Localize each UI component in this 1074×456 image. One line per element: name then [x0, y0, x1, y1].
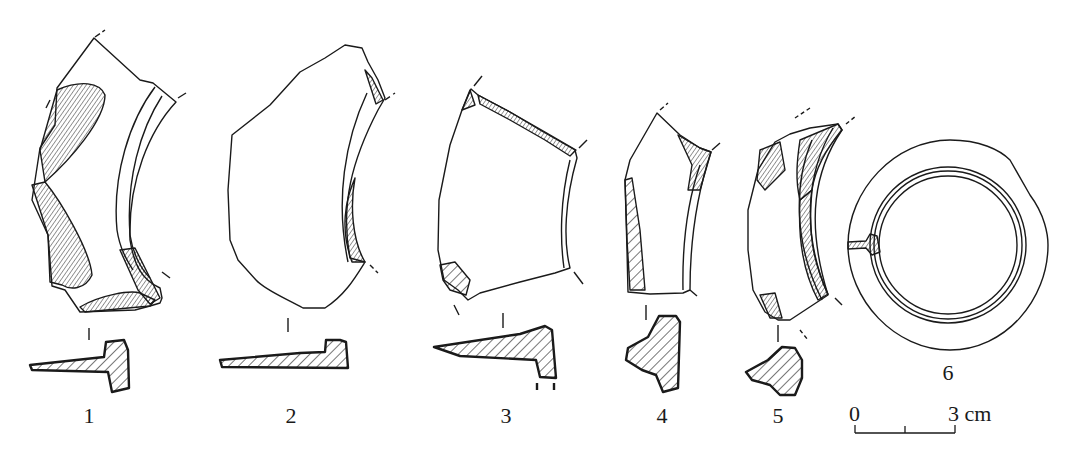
specimen-label-1: 1: [84, 403, 95, 429]
scale-bar: [855, 425, 955, 433]
specimen-1-plan: [32, 30, 186, 340]
specimen-4-section: [626, 316, 680, 392]
specimen-5-section: [746, 347, 802, 395]
specimen-4-plan: [625, 103, 720, 320]
specimen-6-plan-full-ring: [848, 140, 1048, 350]
specimen-3-section: [434, 326, 556, 390]
specimen-label-2: 2: [286, 403, 297, 429]
specimen-label-6: 6: [943, 360, 954, 386]
specimen-3-plan: [438, 76, 587, 328]
specimen-label-5: 5: [773, 403, 784, 429]
specimen-label-3: 3: [501, 403, 512, 429]
specimen-2-plan: [228, 45, 395, 332]
specimen-5-plan: [748, 108, 856, 342]
specimen-1-section: [30, 340, 129, 392]
drawing-canvas: [0, 0, 1074, 456]
specimen-2-section: [220, 340, 348, 368]
specimen-label-4: 4: [657, 403, 668, 429]
scale-start-label: 0: [849, 401, 860, 427]
scale-end-label: 3 cm: [948, 401, 991, 427]
